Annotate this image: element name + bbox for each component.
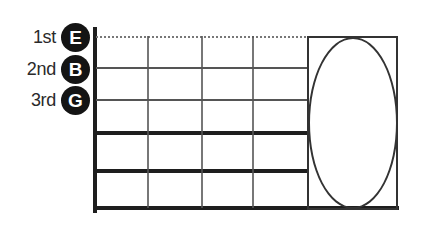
note-badge-3: G [61, 86, 90, 115]
fret-line-2 [201, 36, 203, 208]
fret-line-1 [147, 36, 149, 208]
string-ordinal-label-2: 2nd [27, 60, 56, 78]
fret-line-3 [252, 36, 254, 208]
string-row-2: 2nd B [12, 54, 90, 84]
string-ordinal-label-3: 3rd [31, 91, 56, 109]
note-badge-2: B [61, 55, 90, 84]
guitar-strings-diagram: 1st E 2nd B 3rd G [0, 0, 427, 229]
note-letter-1: E [69, 28, 82, 47]
sound-hole-ellipse [308, 37, 398, 209]
string-ordinal-label-1: 1st [33, 28, 56, 46]
note-letter-2: B [69, 60, 83, 79]
string-row-3: 3rd G [12, 85, 90, 115]
note-letter-3: G [68, 91, 83, 110]
nut-line [93, 27, 97, 213]
string-row-1: 1st E [12, 22, 90, 52]
note-badge-1: E [61, 23, 90, 52]
